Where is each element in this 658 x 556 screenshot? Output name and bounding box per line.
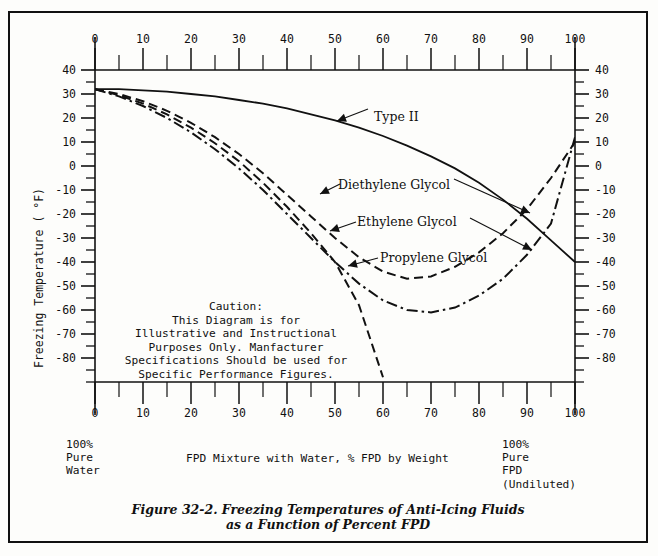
figure-caption-line2: as a Function of Percent FPD bbox=[10, 517, 646, 532]
x-tick-label-bottom-30: 30 bbox=[232, 406, 246, 420]
caution-line-4: Purposes Only. Manfacturer bbox=[106, 341, 366, 355]
figure-border: 0010102020303040405050606070708080909010… bbox=[8, 11, 648, 543]
y-tick-label-left-20: 20 bbox=[62, 111, 76, 125]
x-tick-label-bottom-90: 90 bbox=[520, 406, 534, 420]
x-tick-label-top-90: 90 bbox=[520, 32, 534, 46]
x-tick-label-top-10: 10 bbox=[136, 32, 150, 46]
y-tick-label-right-30: 30 bbox=[595, 87, 609, 101]
x-tick-label-bottom-100: 100 bbox=[565, 406, 586, 420]
series-label-diethylene-glycol: Diethylene Glycol bbox=[338, 177, 450, 192]
caution-line-2: This Diagram is for bbox=[106, 314, 366, 328]
right-end-label: 100%PureFPD(Undiluted) bbox=[502, 438, 632, 491]
y-tick-label-left-30: 30 bbox=[62, 87, 76, 101]
figure-page: 0010102020303040405050606070708080909010… bbox=[0, 0, 658, 556]
x-tick-label-bottom-20: 20 bbox=[184, 406, 198, 420]
y-tick-label-right--20: -20 bbox=[595, 207, 616, 221]
y-tick-label-left--50: -50 bbox=[55, 279, 76, 293]
series-label-type-ii: Type II bbox=[374, 109, 419, 124]
caution-line-5: Specifications Should be used for bbox=[106, 354, 366, 368]
diethylene-annotation-right-leader bbox=[454, 179, 530, 213]
y-tick-label-left--20: -20 bbox=[55, 207, 76, 221]
x-tick-label-bottom-60: 60 bbox=[376, 406, 390, 420]
series-label-propylene-glycol: Propylene Glycol bbox=[380, 250, 487, 265]
x-tick-label-top-0: 0 bbox=[92, 32, 99, 46]
y-tick-label-right--50: -50 bbox=[595, 279, 616, 293]
y-tick-label-left--40: -40 bbox=[55, 255, 76, 269]
y-tick-label-left-10: 10 bbox=[62, 135, 76, 149]
right-end-line-3: FPD bbox=[502, 464, 632, 477]
figure-caption-line1: Figure 32-2. Freezing Temperatures of An… bbox=[10, 502, 646, 517]
y-tick-label-right-20: 20 bbox=[595, 111, 609, 125]
x-tick-label-top-80: 80 bbox=[472, 32, 486, 46]
x-tick-label-bottom-0: 0 bbox=[92, 406, 99, 420]
y-tick-label-left--30: -30 bbox=[55, 231, 76, 245]
left-end-line-2: Pure bbox=[66, 451, 142, 464]
y-tick-label-right-0: 0 bbox=[595, 159, 602, 173]
x-tick-label-top-60: 60 bbox=[376, 32, 390, 46]
x-tick-label-top-70: 70 bbox=[424, 32, 438, 46]
y-tick-label-left--80: -80 bbox=[55, 351, 76, 365]
y-tick-label-right--70: -70 bbox=[595, 327, 616, 341]
x-tick-label-top-30: 30 bbox=[232, 32, 246, 46]
y-tick-label-right--80: -80 bbox=[595, 351, 616, 365]
y-tick-label-left-0: 0 bbox=[69, 159, 76, 173]
y-tick-label-left--70: -70 bbox=[55, 327, 76, 341]
caution-note: Caution:This Diagram is forIllustrative … bbox=[106, 300, 366, 382]
x-tick-label-top-40: 40 bbox=[280, 32, 294, 46]
y-tick-label-left--10: -10 bbox=[55, 183, 76, 197]
right-end-line-2: Pure bbox=[502, 451, 632, 464]
caution-line-3: Illustrative and Instructional bbox=[106, 327, 366, 341]
y-axis-title: Freezing Temperature ( °F) bbox=[32, 188, 46, 368]
propylene-annotation-arrowhead bbox=[348, 260, 358, 268]
x-tick-label-bottom-40: 40 bbox=[280, 406, 294, 420]
left-end-label: 100%PureWater bbox=[66, 438, 142, 478]
x-tick-label-top-50: 50 bbox=[328, 32, 342, 46]
x-tick-label-bottom-10: 10 bbox=[136, 406, 150, 420]
curve-diethylene-glycol bbox=[95, 89, 575, 279]
y-tick-label-right-40: 40 bbox=[595, 63, 609, 77]
y-tick-label-right--30: -30 bbox=[595, 231, 616, 245]
right-end-line-4: (Undiluted) bbox=[502, 478, 632, 491]
x-tick-label-bottom-70: 70 bbox=[424, 406, 438, 420]
y-tick-label-right--40: -40 bbox=[595, 255, 616, 269]
y-tick-label-right--60: -60 bbox=[595, 303, 616, 317]
series-label-ethylene-glycol: Ethylene Glycol bbox=[357, 214, 457, 229]
ethylene-annotation-right-leader bbox=[470, 218, 532, 250]
y-tick-label-right-10: 10 bbox=[595, 135, 609, 149]
left-end-line-3: Water bbox=[66, 464, 142, 477]
left-end-line-1: 100% bbox=[66, 438, 142, 451]
x-axis-title: FPD Mixture with Water, % FPD by Weight bbox=[186, 452, 449, 465]
x-tick-label-bottom-50: 50 bbox=[328, 406, 342, 420]
y-tick-label-left-40: 40 bbox=[62, 63, 76, 77]
y-tick-label-right--10: -10 bbox=[595, 183, 616, 197]
y-tick-label-left--60: -60 bbox=[55, 303, 76, 317]
x-tick-label-top-100: 100 bbox=[565, 32, 586, 46]
x-tick-label-bottom-80: 80 bbox=[472, 406, 486, 420]
x-tick-label-top-20: 20 bbox=[184, 32, 198, 46]
caution-line-6: Specific Performance Figures. bbox=[106, 368, 366, 382]
caution-line-1: Caution: bbox=[106, 300, 366, 314]
ethylene-annotation-arrowhead bbox=[330, 224, 340, 232]
right-end-line-1: 100% bbox=[502, 438, 632, 451]
